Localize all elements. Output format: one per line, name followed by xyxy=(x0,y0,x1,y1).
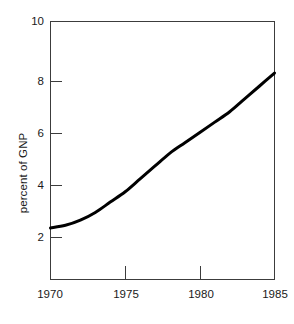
plot-background xyxy=(50,21,275,280)
chart-figure: percent of GNP 10 8 6 4 2 1 xyxy=(0,0,294,324)
x-tick-label-1970: 1970 xyxy=(27,288,73,300)
x-tick-label-1975: 1975 xyxy=(103,288,149,300)
y-tick-label-8: 8 xyxy=(18,75,44,87)
y-tick-label-10: 10 xyxy=(18,15,44,27)
x-tick-label-1985: 1985 xyxy=(252,288,294,300)
y-tick-label-6: 6 xyxy=(18,127,44,139)
y-tick-label-4: 4 xyxy=(18,179,44,191)
x-tick-label-1980: 1980 xyxy=(178,288,224,300)
plot-area xyxy=(0,0,294,324)
y-tick-label-2: 2 xyxy=(18,231,44,243)
